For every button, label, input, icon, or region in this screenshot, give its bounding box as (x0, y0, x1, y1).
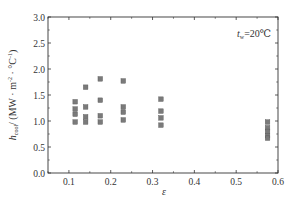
data-points (73, 77, 270, 141)
data-point-square (98, 98, 103, 103)
data-point-square (73, 112, 78, 117)
data-point-square (265, 136, 270, 141)
plot-frame (48, 17, 278, 173)
y-tick-label: 3.0 (33, 13, 45, 23)
data-point-square (83, 115, 88, 120)
y-tick-label: 0.5 (33, 143, 45, 153)
data-point-square (121, 79, 126, 84)
data-point-square (121, 118, 126, 123)
data-point-square (159, 123, 164, 128)
data-point-square (83, 85, 88, 90)
data-point-square (98, 114, 103, 119)
condition-annotation: tw=20℃ (237, 28, 271, 40)
data-point-square (83, 120, 88, 125)
y-tick-label: 2.0 (33, 65, 45, 75)
scatter-chart: 0.10.20.30.40.50.60.00.51.01.52.02.53.0 … (0, 0, 299, 201)
x-tick-label: 0.5 (230, 177, 242, 187)
data-point-square (159, 97, 164, 102)
plot-axes (48, 17, 278, 173)
data-point-square (159, 116, 164, 121)
data-point-square (73, 107, 78, 112)
data-point-square (265, 120, 270, 125)
x-tick-label: 0.3 (147, 177, 159, 187)
x-tick-label: 0.4 (188, 177, 200, 187)
y-tick-label: 1.5 (33, 91, 45, 101)
y-tick-label: 1.0 (33, 117, 45, 127)
data-point-square (121, 110, 126, 115)
data-point-square (121, 105, 126, 110)
data-point-square (98, 77, 103, 82)
x-tick-label: 0.1 (63, 177, 75, 187)
data-point-square (98, 120, 103, 125)
data-point-square (159, 109, 164, 114)
data-point-square (73, 120, 78, 125)
x-tick-label: 0.6 (272, 177, 284, 187)
y-tick-label: 2.5 (33, 39, 45, 49)
x-tick-label: 0.2 (105, 177, 117, 187)
y-tick-label: 0.0 (33, 169, 45, 179)
data-point-square (73, 99, 78, 104)
data-point-square (83, 105, 88, 110)
data-point-square (265, 129, 270, 134)
y-axis-label: hcool/ (MW · m-2 · °C-1) (7, 50, 19, 141)
x-axis-label: ε (162, 186, 166, 197)
